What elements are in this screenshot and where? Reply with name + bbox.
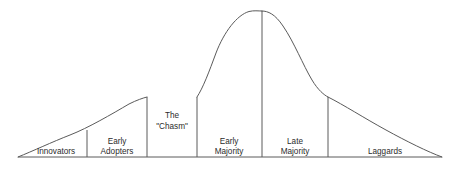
label-early-majority-line2: Majority: [215, 147, 245, 156]
label-late-majority-line1: Late: [287, 137, 303, 146]
adoption-curve-diagram: Innovators Early Adopters The "Chasm" Ea…: [0, 0, 458, 170]
adoption-curve-chart: Innovators Early Adopters The "Chasm" Ea…: [0, 0, 458, 170]
label-early-adopters-line2: Adopters: [101, 147, 134, 156]
label-chasm-line1: The: [165, 111, 180, 120]
label-early-adopters-line1: Early: [108, 137, 128, 146]
label-chasm-line2: "Chasm": [156, 122, 188, 131]
label-late-majority-line2: Majority: [281, 147, 311, 156]
label-early-majority-line1: Early: [220, 137, 240, 146]
bell-curve-right-flank: [262, 11, 328, 97]
label-innovators: Innovators: [37, 147, 75, 156]
label-laggards: Laggards: [368, 147, 402, 156]
bell-curve-left-flank: [197, 11, 262, 97]
